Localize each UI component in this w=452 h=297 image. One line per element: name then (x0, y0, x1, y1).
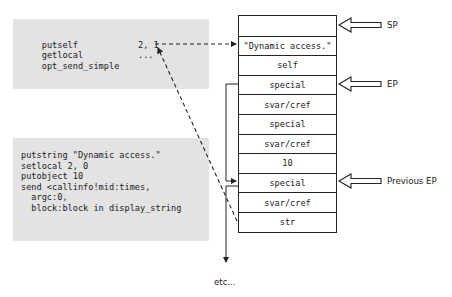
stack-cell-special-previous: special (239, 173, 336, 193)
code-line: putstring "Dynamic access." (21, 150, 209, 161)
previous-ep-arrow-icon (339, 174, 381, 188)
previous-ep-to-etc-link (226, 186, 238, 262)
etc-label: etc... (214, 277, 236, 287)
ep-arrow-icon (339, 77, 381, 91)
sp-arrow-icon (339, 18, 381, 32)
previous-ep-label: Previous EP (387, 176, 437, 186)
code-block-block: putstring "Dynamic access." setlocal 2, … (13, 138, 209, 241)
stack-cell-string: "Dynamic access." (239, 36, 336, 56)
code-line: putobject 10 (21, 171, 209, 182)
sp-label: SP (387, 20, 398, 30)
code-line: setlocal 2, 0 (21, 161, 209, 172)
operand: ... (138, 50, 154, 61)
stack-cell-svar-cref: svar/cref (239, 134, 336, 154)
operand: 2, 1 (138, 40, 159, 51)
stack-cell-special: special (239, 75, 336, 95)
code-line-opt-send-simple: opt_send_simple ... (21, 50, 209, 61)
code-line-putself: putself (21, 29, 209, 40)
opcode: opt_send_simple (42, 61, 120, 71)
stack-cell-str: str (239, 212, 336, 232)
code-line-getlocal: getlocal 2, 1 (21, 40, 209, 51)
ep-to-previous-ep-link (226, 84, 238, 181)
code-line: argc:0, (21, 192, 209, 203)
stack-cell-empty (239, 16, 336, 36)
stack-cell-special: special (239, 114, 336, 134)
code-line: send <callinfo!mid:times, (21, 182, 209, 193)
code-block-caller: putself getlocal 2, 1 opt_send_simple ..… (13, 19, 209, 89)
code-line: block:block in display_string (21, 203, 209, 214)
ep-label: EP (387, 79, 398, 89)
stack-cell-self: self (239, 55, 336, 75)
stack-cell-svar-cref: svar/cref (239, 94, 336, 114)
stack-cell-ten: 10 (239, 153, 336, 173)
stack-cell-svar-cref: svar/cref (239, 192, 336, 212)
vm-stack: "Dynamic access." self special svar/cref… (238, 15, 337, 233)
